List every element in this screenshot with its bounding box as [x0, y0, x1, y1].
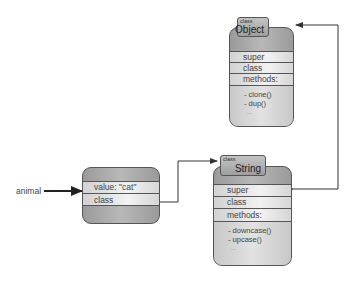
ellipsis: ... [230, 108, 293, 117]
class-pointer-arrow [157, 161, 217, 202]
instance-value-row: value: "cat" [83, 181, 159, 193]
object-super-row: super [230, 51, 293, 62]
string-super-row: super [214, 184, 291, 196]
instance-class-row: class [83, 193, 159, 206]
string-class-box: super class methods: - downcase() - upca… [213, 166, 292, 266]
class-name: String [235, 163, 261, 174]
connectors [0, 0, 354, 281]
class-name: Object [235, 24, 264, 35]
object-methods-row: methods: [230, 73, 293, 85]
method-item: - clone() [230, 90, 293, 99]
string-class-tab: class String [220, 155, 266, 176]
string-methods-list: - downcase() - upcase() ... [214, 221, 291, 265]
string-class-row: class [214, 196, 291, 208]
variable-label: animal [16, 186, 41, 196]
class-kind-label: class [223, 156, 236, 162]
object-class-tab: class Object [237, 17, 269, 37]
object-class-box: super class methods: - clone() - dup() .… [229, 27, 294, 127]
method-item: - dup() [230, 99, 293, 108]
instance-box: value: "cat" class [82, 167, 160, 224]
method-item: - upcase() [214, 235, 291, 244]
ellipsis: ... [214, 244, 291, 253]
object-methods-list: - clone() - dup() ... [230, 85, 293, 126]
super-pointer-arrow [291, 25, 338, 189]
string-methods-row: methods: [214, 208, 291, 221]
object-class-row: class [230, 62, 293, 73]
method-item: - downcase() [214, 226, 291, 235]
